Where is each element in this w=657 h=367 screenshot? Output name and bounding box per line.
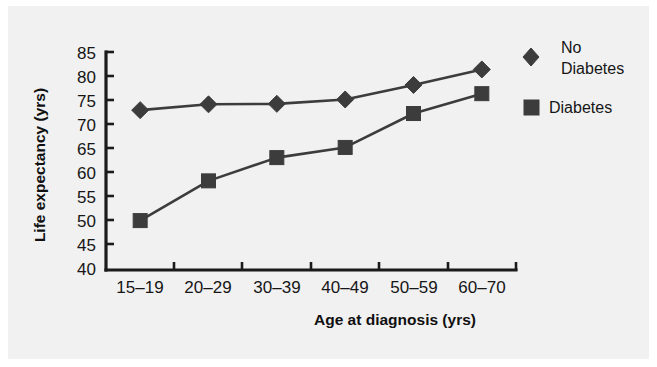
x-tick-labels: 15–19 20–29 30–39 40–49 50–59 60–70	[116, 278, 505, 297]
legend: No Diabetes Diabetes	[523, 39, 624, 116]
legend-item-diabetes[interactable]: Diabetes	[524, 99, 612, 116]
square-marker-icon	[524, 100, 539, 115]
series-no-diabetes	[132, 61, 491, 119]
y-tick-label: 45	[77, 236, 96, 255]
y-tick-label: 40	[77, 260, 96, 279]
legend-label: No	[561, 39, 582, 56]
series-layer	[132, 61, 491, 228]
data-point-square	[338, 140, 352, 154]
x-axis-title: Age at diagnosis (yrs)	[314, 311, 476, 328]
x-tick-label: 50–59	[390, 278, 437, 297]
y-tick-label: 60	[77, 164, 96, 183]
data-point-square	[407, 107, 421, 121]
data-point-square	[270, 151, 284, 165]
x-tick-label: 30–39	[253, 278, 300, 297]
data-point-diamond	[473, 61, 490, 78]
y-tick-label: 65	[77, 140, 96, 159]
legend-item-no-diabetes[interactable]: No Diabetes	[523, 39, 624, 77]
x-tick-label: 15–19	[116, 278, 163, 297]
legend-label: Diabetes	[549, 99, 612, 116]
data-point-square	[202, 174, 216, 188]
legend-label: Diabetes	[561, 60, 624, 77]
x-tick-label: 20–29	[184, 278, 231, 297]
data-point-diamond	[132, 102, 149, 119]
line-chart: Life expectancy (yrs) 85 80 75 70 65 60 …	[0, 0, 657, 367]
x-tick-label: 40–49	[321, 278, 368, 297]
data-point-diamond	[200, 96, 217, 113]
series-diabetes	[133, 87, 489, 228]
y-tick-labels: 85 80 75 70 65 60 55 50 45 40	[77, 44, 96, 279]
y-tick-label: 75	[77, 92, 96, 111]
series-line	[140, 69, 482, 110]
data-point-diamond	[405, 76, 422, 93]
data-point-square	[475, 87, 489, 101]
y-tick-label: 50	[77, 212, 96, 231]
y-tick-label: 80	[77, 68, 96, 87]
y-tick-label: 70	[77, 116, 96, 135]
y-tick-label: 85	[77, 44, 96, 63]
series-line	[140, 94, 482, 221]
y-axis-title: Life expectancy (yrs)	[31, 88, 48, 242]
data-point-diamond	[268, 95, 285, 112]
figure-container: Life expectancy (yrs) 85 80 75 70 65 60 …	[0, 0, 657, 367]
y-tick-label: 55	[77, 188, 96, 207]
x-tick-label: 60–70	[458, 278, 505, 297]
data-point-diamond	[337, 91, 354, 108]
data-point-square	[133, 214, 147, 228]
diamond-marker-icon	[523, 48, 539, 66]
